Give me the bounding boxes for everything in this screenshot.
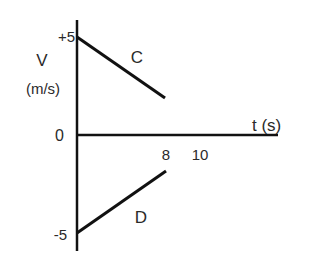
series-d-line [77,171,166,233]
series-c-label: C [131,48,143,67]
y-tick-plus5: +5 [58,28,75,45]
y-axis-label-v: V [36,51,48,70]
velocity-time-chart: +5 0 -5 V (m/s) t (s) 8 10 C D [0,0,324,261]
y-tick-zero: 0 [55,127,64,144]
y-axis-label-unit: (m/s) [26,80,60,97]
x-tick-8: 8 [162,146,170,163]
y-tick-minus5: -5 [54,226,67,243]
x-axis-label: t (s) [252,116,281,135]
series-d-label: D [135,208,147,227]
x-tick-10: 10 [192,146,209,163]
series-c-line [77,37,165,98]
